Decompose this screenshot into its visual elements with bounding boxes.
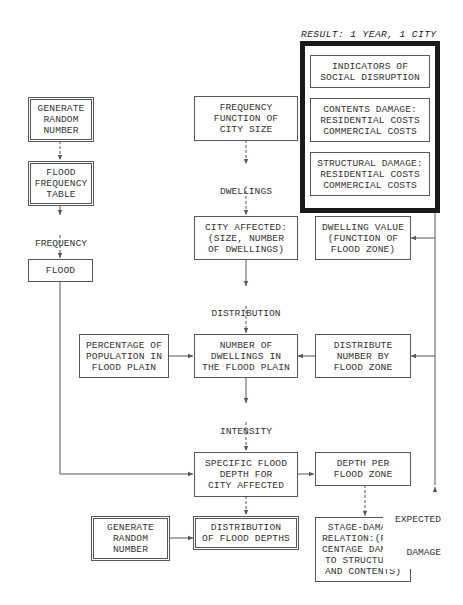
text-line: EXPECTED — [383, 514, 441, 525]
text-line: DWELLINGS — [194, 186, 298, 197]
text-line: FLOOD ZONE — [334, 469, 393, 480]
box-contents-damage: CONTENTS DAMAGE: RESIDENTIAL COSTS COMME… — [310, 98, 430, 142]
text-line: SOCIAL DISRUPTION — [320, 72, 420, 83]
text-line: FREQUENCY — [220, 102, 273, 113]
text-line: (SIZE, NUMBER — [208, 233, 284, 244]
text-line: FLOOD ZONE) — [331, 244, 395, 255]
text-line: DWELLING VALUE — [322, 222, 404, 233]
text-line: CITY AFFECTED — [208, 480, 284, 491]
text-line: INDICATORS OF — [332, 61, 408, 72]
text-line: TABLE — [46, 189, 75, 200]
text-line: RANDOM — [113, 533, 148, 544]
box-generate-random-number-2: GENERATE RANDOM NUMBER — [91, 516, 170, 561]
text-line: DISTRIBUTION — [184, 308, 308, 319]
text-line: INTENSITY — [194, 426, 298, 437]
text-line: THE FLOOD PLAIN — [202, 362, 290, 373]
text-line: FREQUENCY — [35, 178, 88, 189]
text-line: FUNCTION OF — [214, 113, 278, 124]
box-social-disruption: INDICATORS OF SOCIAL DISRUPTION — [310, 55, 430, 88]
box-specific-flood-depth: SPECIFIC FLOOD DEPTH FOR CITY AFFECTED — [194, 452, 298, 497]
box-distribution-of-flood-depths: DISTRIBUTION OF FLOOD DEPTHS — [193, 516, 299, 550]
text-line: STRUCTURAL DAMAGE: — [317, 158, 422, 169]
text-line: COMMERCIAL COSTS — [323, 126, 417, 137]
text-line: NUMBER BY — [337, 351, 390, 362]
box-structural-damage: STRUCTURAL DAMAGE: RESIDENTIAL COSTS COM… — [310, 152, 430, 196]
text-line: CITY AFFECTED: — [205, 222, 287, 233]
text-line: DEPTH FOR — [220, 469, 273, 480]
text-line: CITY SIZE — [220, 124, 273, 135]
text-line: DAMAGE — [383, 547, 441, 558]
text-line: GENERATE — [38, 103, 85, 114]
text-line: FLOOD ZONE — [334, 362, 393, 373]
box-flood-frequency-table: FLOOD FREQUENCY TABLE — [28, 161, 94, 206]
text-line: FLOOD — [46, 167, 75, 178]
box-percentage-population: PERCENTAGE OF POPULATION IN FLOOD PLAIN — [79, 334, 169, 378]
text-line: GENERATE — [107, 522, 154, 533]
text-line: RESIDENTIAL COSTS — [320, 169, 420, 180]
text-line: RANDOM — [43, 114, 78, 125]
text-line: PERCENTAGE OF — [86, 340, 162, 351]
box-flood: FLOOD — [28, 259, 93, 282]
text-line: DISTRIBUTION — [211, 522, 281, 533]
label-expected-damage: EXPECTED DAMAGE — [383, 492, 441, 569]
text-line: FLOOD PLAIN — [92, 362, 156, 373]
text-line: RESIDENTIAL COSTS — [320, 115, 420, 126]
box-distribute-number: DISTRIBUTE NUMBER BY FLOOD ZONE — [315, 334, 411, 378]
text-line: NUMBER — [113, 544, 148, 555]
box-dwelling-value: DWELLING VALUE (FUNCTION OF FLOOD ZONE) — [315, 216, 411, 260]
box-number-of-dwellings: NUMBER OF DWELLINGS IN THE FLOOD PLAIN — [194, 334, 298, 378]
text-line: DWELLINGS IN — [211, 351, 281, 362]
text-line: COMMERCIAL COSTS — [323, 180, 417, 191]
text-line: FREQUENCY — [24, 238, 98, 249]
text-line: POPULATION IN — [86, 351, 162, 362]
text-line: DEPTH PER — [337, 458, 390, 469]
text-line: NUMBER OF — [220, 340, 273, 351]
box-generate-random-number: GENERATE RANDOM NUMBER — [28, 97, 94, 142]
text-line: OF DWELLINGS) — [208, 244, 284, 255]
text-line: OF FLOOD DEPTHS — [202, 533, 290, 544]
text-line: (FUNCTION OF — [328, 233, 398, 244]
box-frequency-function: FREQUENCY FUNCTION OF CITY SIZE — [194, 96, 298, 141]
box-city-affected: CITY AFFECTED: (SIZE, NUMBER OF DWELLING… — [194, 216, 298, 260]
text-line: DISTRIBUTE — [334, 340, 393, 351]
text-line: NUMBER — [43, 125, 78, 136]
text-line: FLOOD — [46, 265, 75, 276]
text-line: CONTENTS DAMAGE: — [323, 104, 417, 115]
result-title: RESULT: 1 YEAR, 1 CITY — [301, 29, 436, 40]
text-line: SPECIFIC FLOOD — [205, 458, 287, 469]
box-depth-per-flood-zone: DEPTH PER FLOOD ZONE — [315, 452, 411, 486]
